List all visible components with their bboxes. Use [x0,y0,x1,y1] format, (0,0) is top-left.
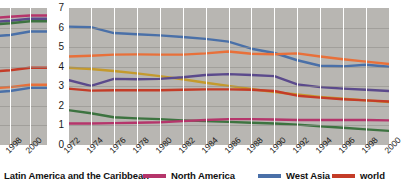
y-axis-tick-label: 2 [58,101,64,111]
vertical-gridline [68,8,69,145]
chart-line-series [0,68,47,72]
legend-item-label: North America [171,170,235,181]
y-axis-tick-label: 3 [58,81,64,91]
chart-line-series [0,88,47,93]
legend-item[interactable]: Latin America and the Caribbean [4,170,149,181]
vertical-gridline [206,8,207,145]
vertical-gridline [30,8,31,145]
y-axis-tick-label: 5 [58,42,64,52]
y-axis: 76543210 [48,0,66,153]
y-axis-tick-label: 4 [58,62,64,72]
vertical-gridline [91,8,92,145]
horizontal-gridline [0,86,47,87]
legend-item-label: Latin America and the Caribbean [4,170,149,181]
legend-color-swatch [143,174,166,178]
vertical-gridline [320,8,321,145]
chart-line-series [0,31,47,36]
vertical-gridline [343,8,344,145]
main-chart-plot-area [68,8,389,145]
chart-legend: Latin America and the CaribbeanNorth Ame… [0,167,389,184]
left-clipped-chart-panel [0,8,47,145]
vertical-gridline [229,8,230,145]
vertical-gridline [114,8,115,145]
vertical-gridline [251,8,252,145]
vertical-gridline [366,8,367,145]
y-axis-tick-label: 1 [58,120,64,130]
legend-color-swatch [258,174,281,178]
legend-color-swatch [332,174,355,178]
vertical-gridline [274,8,275,145]
horizontal-gridline [0,67,47,68]
vertical-gridline [297,8,298,145]
y-axis-tick-label: 7 [58,3,64,13]
legend-item-label: world [360,170,385,181]
vertical-gridline [10,8,11,145]
legend-item[interactable]: world [332,170,385,181]
horizontal-gridline [0,28,47,29]
horizontal-gridline [0,47,47,48]
vertical-gridline [160,8,161,145]
horizontal-gridline [0,125,47,126]
vertical-gridline [183,8,184,145]
legend-item[interactable]: West Asia [258,170,330,181]
y-axis-tick-label: 6 [58,23,64,33]
vertical-gridline [137,8,138,145]
legend-item-label: West Asia [286,170,330,181]
horizontal-gridline [0,106,47,107]
legend-item[interactable]: North America [143,170,235,181]
